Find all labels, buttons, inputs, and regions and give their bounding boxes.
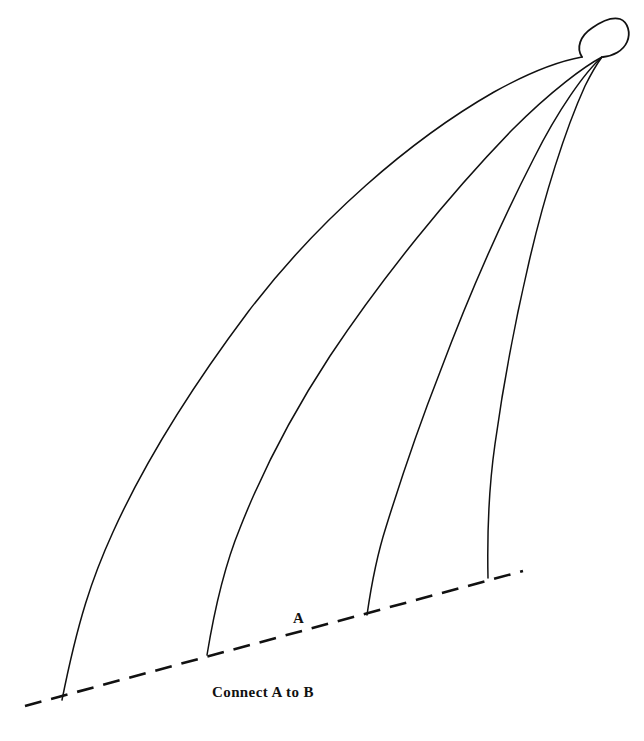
- curve-1-outer: [62, 57, 582, 700]
- curve-4-inner: [488, 57, 602, 578]
- curve-2: [207, 57, 602, 655]
- point-label-a: A: [293, 610, 304, 626]
- rounded-loop-tip: [579, 18, 629, 57]
- connect-a-to-b-diagram: A Connect A to B: [0, 0, 644, 741]
- figure-canvas: A Connect A to B: [0, 0, 644, 741]
- curve-3: [367, 57, 602, 615]
- figure-caption: Connect A to B: [212, 684, 314, 700]
